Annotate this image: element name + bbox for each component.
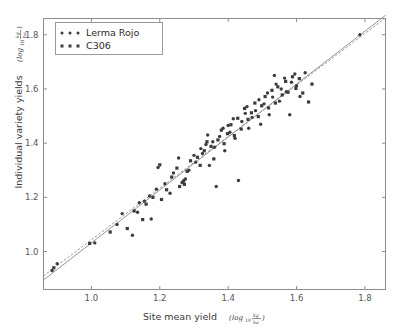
data-point-square — [291, 75, 294, 78]
legend-marker-square-icon — [69, 45, 72, 48]
data-point-square — [310, 82, 313, 85]
data-point-square — [246, 118, 249, 121]
data-point-square — [189, 159, 192, 162]
legend-label-c306: C306 — [86, 40, 111, 51]
data-point-square — [286, 91, 289, 94]
data-point-square — [216, 138, 219, 141]
data-point-circle — [148, 194, 151, 197]
data-point-circle — [206, 133, 209, 136]
x-axis-frac-numerator: kg — [253, 313, 259, 319]
y-tick-label: 1.4 — [25, 138, 39, 148]
y-axis-frac-numerator: kg — [15, 32, 21, 38]
data-point-circle — [223, 149, 226, 152]
data-point-circle — [257, 98, 260, 101]
data-point-square — [274, 101, 277, 104]
data-points — [50, 33, 361, 272]
data-point-square — [109, 230, 112, 233]
data-point-square — [243, 107, 246, 110]
data-point-circle — [93, 241, 96, 244]
data-point-circle — [283, 76, 286, 79]
svg-text:Individual variety yields: Individual variety yields — [13, 75, 24, 188]
data-point-circle — [184, 177, 187, 180]
svg-text:Site mean yield: Site mean yield — [143, 311, 217, 322]
data-point-square — [133, 209, 136, 212]
legend-marker-square-icon — [77, 45, 80, 48]
x-tick-label: 1.4 — [221, 293, 235, 303]
y-tick-label: 1.6 — [25, 84, 39, 94]
data-point-circle — [138, 201, 141, 204]
svg-text:): ) — [261, 314, 265, 322]
data-point-square — [307, 100, 310, 103]
chart-legend[interactable]: Lerma Rojo C306 — [56, 23, 163, 55]
data-point-square — [165, 188, 168, 191]
data-point-circle — [168, 192, 171, 195]
data-point-circle — [115, 223, 118, 226]
data-point-circle — [298, 95, 301, 98]
data-point-circle — [177, 156, 180, 159]
data-point-square — [284, 80, 287, 83]
data-point-square — [126, 227, 129, 230]
data-point-square — [253, 101, 256, 104]
data-point-circle — [237, 179, 240, 182]
data-point-circle — [303, 71, 306, 74]
data-point-circle — [266, 91, 269, 94]
legend-marker-circle-icon — [61, 32, 64, 35]
data-point-circle — [232, 117, 235, 120]
data-point-square — [301, 91, 304, 94]
data-point-square — [186, 170, 189, 173]
data-point-circle — [211, 140, 214, 143]
data-point-circle — [194, 160, 197, 163]
y-axis-log-base: 10 — [20, 40, 25, 46]
y-tick-label: 1.0 — [25, 247, 39, 257]
data-point-circle — [131, 234, 134, 237]
data-point-square — [270, 89, 273, 92]
data-point-circle — [247, 127, 250, 130]
chart-figure: 1.01.21.41.61.8 1.01.21.41.61.8 Site mea… — [0, 0, 407, 332]
data-point-circle — [240, 120, 243, 123]
data-point-square — [233, 134, 236, 137]
data-point-circle — [244, 112, 247, 115]
data-point-square — [212, 157, 215, 160]
data-point-square — [170, 175, 173, 178]
y-axis-title: Individual variety yields ( log 10 kg ha… — [13, 26, 27, 189]
data-point-circle — [250, 116, 253, 119]
data-point-circle — [215, 185, 218, 188]
data-point-circle — [136, 211, 139, 214]
data-point-circle — [55, 262, 58, 265]
x-axis-title-text: Site mean yield — [143, 311, 217, 322]
y-axis-log-symbol: log — [16, 48, 24, 59]
data-point-circle — [259, 122, 262, 125]
x-tick-label: 1.6 — [290, 293, 304, 303]
data-point-square — [222, 142, 225, 145]
legend-marker-circle-icon — [69, 32, 72, 35]
y-tick-label: 1.2 — [25, 192, 39, 202]
data-point-square — [229, 123, 232, 126]
data-point-circle — [120, 212, 123, 215]
data-point-square — [199, 164, 202, 167]
data-point-square — [160, 198, 163, 201]
data-point-square — [141, 218, 144, 221]
data-point-square — [209, 145, 212, 148]
data-point-circle — [278, 99, 281, 102]
data-point-square — [257, 115, 260, 118]
data-point-circle — [150, 217, 153, 220]
x-tick-label: 1.2 — [153, 293, 167, 303]
data-point-circle — [288, 113, 291, 116]
data-point-square — [298, 77, 301, 80]
data-point-square — [151, 196, 154, 199]
x-axis-log-symbol: log — [232, 314, 243, 322]
data-point-square — [158, 163, 161, 166]
data-point-square — [196, 156, 199, 159]
data-point-square — [145, 203, 148, 206]
data-point-square — [175, 166, 178, 169]
data-point-square — [240, 127, 243, 130]
data-point-circle — [213, 146, 216, 149]
data-point-square — [220, 129, 223, 132]
data-point-circle — [279, 87, 282, 90]
data-point-square — [250, 111, 253, 114]
data-point-square — [205, 140, 208, 143]
data-point-circle — [208, 164, 211, 167]
y-tick-label: 1.8 — [25, 30, 39, 40]
data-point-circle — [199, 147, 202, 150]
data-point-circle — [172, 171, 175, 174]
